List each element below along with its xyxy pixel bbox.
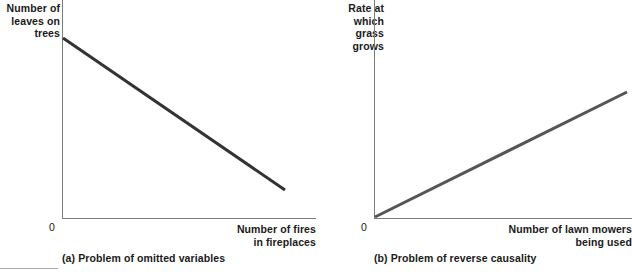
figure-container: Number of leaves on trees 0 Number of fi… [0, 0, 632, 274]
x-axis-label-panel-a: Number of fires in fireplaces [116, 223, 316, 248]
footer-divider-rule [0, 268, 58, 269]
x-axis-label-panel-b: Number of lawn mowers being used [412, 223, 632, 248]
origin-label-panel-a: 0 [49, 221, 55, 233]
origin-label-panel-b: 0 [361, 221, 367, 233]
panel-reverse-causality: Rate at which grass grows 0 Number of la… [316, 0, 632, 274]
panel-omitted-variables: Number of leaves on trees 0 Number of fi… [0, 0, 316, 274]
trend-line-positive [375, 92, 627, 217]
caption-panel-a: (a) Problem of omitted variables [62, 252, 225, 265]
trend-line-negative [63, 38, 285, 190]
caption-panel-b: (b) Problem of reverse causality [374, 252, 537, 265]
